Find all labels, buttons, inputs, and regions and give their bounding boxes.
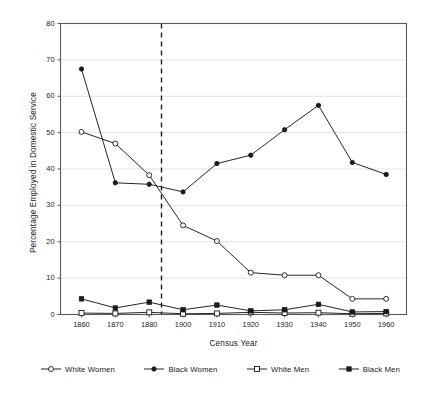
series-black-women [79,67,388,194]
y-tick-label: 30 [29,201,55,208]
x-axis-label: Census Year [60,339,407,348]
y-tick-label: 0 [29,311,55,318]
legend-label: White Men [271,365,309,374]
y-tick-label: 40 [29,165,55,172]
plot-canvas [0,0,431,394]
open-circle-icon [40,364,62,374]
legend-label: White Women [65,365,115,374]
data-series-group [79,67,389,317]
legend-item-black-men[interactable]: Black Men [338,364,400,374]
y-tick-label: 10 [29,274,55,281]
gridlines [61,24,407,279]
y-tick-label: 60 [29,92,55,99]
filled-square-icon [338,364,360,374]
open-square-icon [246,364,268,374]
y-tick-label: 80 [29,20,55,27]
legend-label: Black Men [363,365,400,374]
y-tick-label: 20 [29,238,55,245]
legend-item-black-women[interactable]: Black Women [143,364,217,374]
y-tick-label: 70 [29,56,55,63]
series-white-women [79,129,389,301]
series-black-men [79,297,388,314]
filled-circle-icon [143,364,165,374]
legend-item-white-women[interactable]: White Women [40,364,115,374]
chart-legend: White WomenBlack WomenWhite MenBlack Men [40,361,400,377]
x-tick-label: 1960 [366,321,406,328]
legend-label: Black Women [168,365,217,374]
axis-tick-marks [58,24,387,318]
legend-item-white-men[interactable]: White Men [246,364,309,374]
series-white-men [79,310,389,316]
y-tick-label: 50 [29,129,55,136]
chart-figure: Percentage Employed in Domestic Service … [0,0,431,394]
